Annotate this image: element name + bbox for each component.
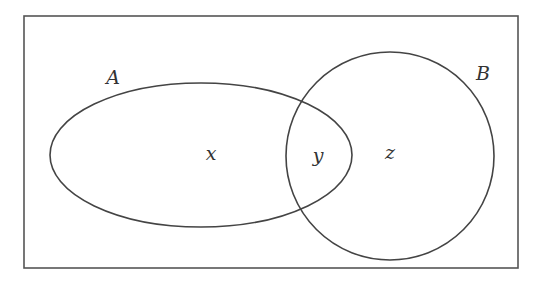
region-a-only-label: x — [206, 142, 217, 164]
venn-diagram: A B x y z — [0, 0, 534, 307]
set-b-label: B — [475, 62, 490, 84]
universe-rectangle — [24, 16, 518, 268]
set-a-label: A — [104, 66, 120, 88]
region-b-only-label: z — [384, 141, 396, 163]
set-a-ellipse — [50, 83, 352, 227]
region-intersection-label: y — [312, 144, 324, 166]
